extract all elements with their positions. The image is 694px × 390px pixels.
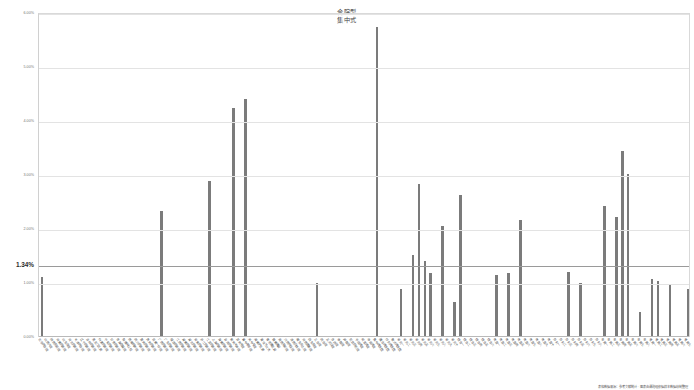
bar — [627, 174, 630, 337]
bar — [687, 289, 690, 337]
y-axis-tick-label: 1.00% — [0, 281, 34, 285]
bar — [519, 220, 522, 337]
gridline — [39, 68, 689, 69]
y-axis-tick-label: 6.00% — [0, 11, 34, 15]
reference-line — [39, 266, 689, 267]
bar — [400, 289, 403, 337]
gridline — [39, 284, 689, 285]
x-axis-labels: 北京四合院山西大院陕西窑洞院河南民居院山东合院河北民居院天津四合院辽宁民居院吉林… — [38, 338, 690, 378]
bar — [376, 27, 379, 338]
bar — [567, 272, 570, 337]
bar — [412, 255, 415, 337]
x-axis-tick-label: 格局七 — [684, 338, 692, 347]
bar — [244, 99, 247, 337]
bar — [429, 273, 432, 337]
reference-line-label: 1.34% — [0, 261, 34, 268]
bar — [316, 283, 319, 337]
bar — [669, 285, 672, 337]
bar — [639, 312, 642, 337]
bar — [621, 151, 624, 337]
bar — [232, 108, 235, 338]
bar — [603, 206, 606, 337]
bar — [208, 181, 211, 337]
bar — [441, 226, 444, 337]
gridline — [39, 14, 689, 15]
footnote: 表格数据来源：参考文献统计 · 图表由课题组依据样本数据绘制整理 — [598, 385, 688, 389]
bar — [453, 302, 456, 337]
y-axis-tick-label: 2.00% — [0, 227, 34, 231]
y-axis-tick-label: 0.00% — [0, 335, 34, 339]
y-axis: 6.00%5.00%4.00%3.00%2.00%1.00%0.00%1.34% — [0, 13, 38, 337]
bar — [507, 273, 510, 337]
y-axis-tick-label: 5.00% — [0, 65, 34, 69]
gridline — [39, 176, 689, 177]
gridline — [39, 230, 689, 231]
bar — [657, 281, 660, 337]
chart-page: 合院型 集中式 6.00%5.00%4.00%3.00%2.00%1.00%0.… — [0, 0, 694, 390]
bar — [615, 217, 618, 337]
bar — [579, 283, 582, 337]
bar — [41, 277, 44, 337]
gridline — [39, 122, 689, 123]
bar — [424, 261, 427, 337]
bar — [418, 184, 421, 337]
bar — [651, 279, 654, 337]
y-axis-tick-label: 4.00% — [0, 119, 34, 123]
plot-area — [38, 13, 690, 337]
y-axis-tick-label: 3.00% — [0, 173, 34, 177]
